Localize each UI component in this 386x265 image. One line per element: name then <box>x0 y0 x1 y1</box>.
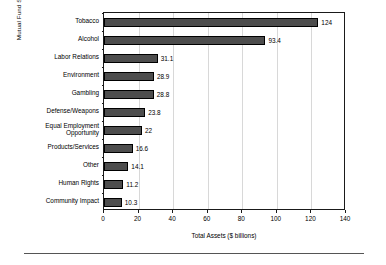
y-axis-title: Mutual Fund Screen Types <box>13 0 25 67</box>
x-axis-tick-label: 40 <box>162 215 182 222</box>
bar <box>104 54 158 63</box>
y-axis-tick <box>102 175 104 176</box>
x-axis-tick <box>207 210 208 213</box>
bar <box>104 198 122 207</box>
x-axis-tick-label: 120 <box>300 215 320 222</box>
x-axis-tick <box>172 210 173 213</box>
y-axis-category-label: Defense/Weapons <box>28 107 99 114</box>
x-axis-tick <box>310 210 311 213</box>
x-axis-tick <box>345 210 346 213</box>
y-axis-tick <box>102 103 104 104</box>
bar-value-label: 14.1 <box>131 162 143 171</box>
x-axis-tick <box>276 210 277 213</box>
bar <box>104 72 154 81</box>
x-axis-tick-label: 80 <box>231 215 251 222</box>
y-axis-category-label: Gambling <box>28 89 99 96</box>
y-axis-category-label: Human Rights <box>28 179 99 186</box>
x-axis-title: Total Assets ($ billions) <box>103 232 345 239</box>
y-axis-category-label: Equal Employment Opportunity <box>28 122 99 137</box>
y-axis-tick <box>102 193 104 194</box>
bar <box>104 144 133 153</box>
x-axis-tick-label: 140 <box>335 215 355 222</box>
bar-value-label: 28.8 <box>157 90 169 99</box>
y-axis-tick <box>102 157 104 158</box>
bar-value-label: 31.1 <box>161 54 173 63</box>
x-axis-tick-label: 100 <box>266 215 286 222</box>
bar-value-label: 124 <box>321 18 332 27</box>
footer-divider <box>24 253 364 254</box>
y-axis-tick <box>102 85 104 86</box>
y-axis-tick <box>102 49 104 50</box>
x-axis-tick <box>138 210 139 213</box>
x-axis-tick <box>103 210 104 213</box>
x-axis-tick-label: 20 <box>128 215 148 222</box>
y-axis-category-labels: TobaccoAlcoholLabor RelationsEnvironment… <box>28 12 99 210</box>
y-axis-category-label: Other <box>28 161 99 168</box>
y-axis-tick <box>102 139 104 140</box>
bar-value-label: 10.3 <box>125 198 137 207</box>
plot-area: 12493.431.128.928.823.82216.614.111.210.… <box>103 12 345 210</box>
bar <box>104 90 154 99</box>
bar-value-label: 11.2 <box>126 180 138 189</box>
bar-value-label: 93.4 <box>268 36 280 45</box>
bar <box>104 162 128 171</box>
x-axis-tick-label: 60 <box>197 215 217 222</box>
y-axis-tick <box>102 13 104 14</box>
y-axis-tick <box>102 67 104 68</box>
bar-value-label: 28.9 <box>157 72 169 81</box>
y-axis-category-label: Products/Services <box>28 143 99 150</box>
bar-value-label: 23.8 <box>148 108 160 117</box>
y-axis-category-label: Community Impact <box>28 197 99 204</box>
x-axis-tick <box>241 210 242 213</box>
y-axis-category-label: Alcohol <box>28 35 99 42</box>
y-axis-category-label: Environment <box>28 71 99 78</box>
y-axis-category-label: Labor Relations <box>28 53 99 60</box>
bar-value-label: 22 <box>145 126 152 135</box>
bar <box>104 126 142 135</box>
x-axis-tick-label: 0 <box>93 215 113 222</box>
bar <box>104 36 265 45</box>
bar <box>104 108 145 117</box>
bar <box>104 180 123 189</box>
y-axis-category-label: Tobacco <box>28 17 99 24</box>
bar-value-label: 16.6 <box>136 144 148 153</box>
y-axis-tick <box>102 121 104 122</box>
bar-chart-figure: Mutual Fund Screen Types TobaccoAlcoholL… <box>0 0 386 265</box>
y-axis-tick <box>102 31 104 32</box>
gridline <box>311 13 312 209</box>
bar <box>104 18 318 27</box>
